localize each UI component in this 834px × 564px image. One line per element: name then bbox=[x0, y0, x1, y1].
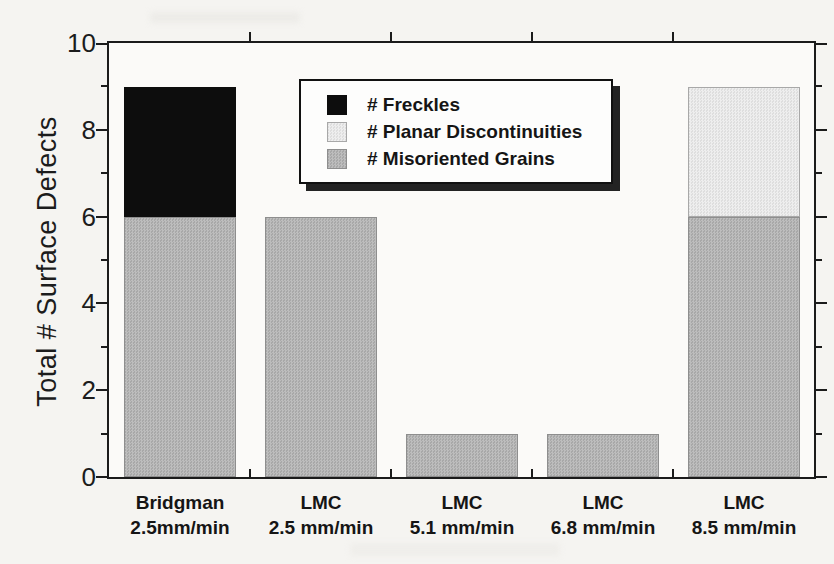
legend-box: # Freckles# Planar Discontinuities# Miso… bbox=[299, 79, 613, 184]
legend-entry-label: # Freckles bbox=[367, 94, 460, 116]
legend-swatch-icon bbox=[327, 95, 347, 115]
bar-segment bbox=[688, 217, 800, 477]
bar-segment bbox=[124, 217, 236, 477]
y-minor-tick-right bbox=[816, 85, 822, 87]
y-minor-tick-left bbox=[101, 172, 107, 174]
bar-segment bbox=[547, 434, 659, 477]
x-boundary-tick-top bbox=[531, 32, 533, 41]
y-minor-tick-right bbox=[816, 346, 822, 348]
y-minor-tick-left bbox=[101, 85, 107, 87]
y-tick-label: 4 bbox=[0, 289, 96, 317]
scan-artifact bbox=[350, 543, 560, 556]
y-major-tick-left bbox=[96, 389, 107, 391]
y-major-tick-left bbox=[96, 43, 107, 45]
y-minor-tick-right bbox=[816, 259, 822, 261]
y-tick-label: 2 bbox=[0, 376, 96, 404]
y-tick-label: 6 bbox=[0, 203, 96, 231]
x-boundary-tick-top bbox=[249, 32, 251, 41]
bar-segment bbox=[688, 87, 800, 217]
legend-swatch-icon bbox=[327, 149, 347, 169]
defect-bar-chart-figure: Total # Surface Defects 0246810 # Freckl… bbox=[0, 0, 834, 564]
x-boundary-tick-bottom bbox=[390, 469, 392, 477]
y-minor-tick-left bbox=[101, 433, 107, 435]
y-minor-tick-left bbox=[101, 259, 107, 261]
x-boundary-tick-bottom bbox=[531, 469, 533, 477]
legend-entry-label: # Planar Discontinuities bbox=[367, 121, 582, 143]
x-category-label: LMC8.5 mm/min bbox=[659, 490, 829, 540]
bar-segment bbox=[124, 87, 236, 217]
y-minor-tick-left bbox=[101, 346, 107, 348]
scan-artifact bbox=[150, 12, 300, 23]
x-category-label-line2: 8.5 mm/min bbox=[659, 515, 829, 540]
y-tick-label: 10 bbox=[0, 29, 96, 57]
y-major-tick-right bbox=[816, 476, 827, 478]
legend-swatch-icon bbox=[327, 122, 347, 142]
x-category-label-line1: LMC bbox=[659, 490, 829, 515]
y-major-tick-right bbox=[816, 129, 827, 131]
y-tick-label: 8 bbox=[0, 116, 96, 144]
legend-entry: # Misoriented Grains bbox=[327, 145, 601, 172]
y-major-tick-left bbox=[96, 129, 107, 131]
y-minor-tick-right bbox=[816, 172, 822, 174]
y-major-tick-right bbox=[816, 302, 827, 304]
legend-entry: # Freckles bbox=[327, 91, 601, 118]
x-boundary-tick-top bbox=[390, 32, 392, 41]
bar-segment bbox=[265, 217, 377, 477]
legend-entries: # Freckles# Planar Discontinuities# Miso… bbox=[327, 91, 601, 172]
x-boundary-tick-bottom bbox=[249, 469, 251, 477]
legend-entry: # Planar Discontinuities bbox=[327, 118, 601, 145]
y-major-tick-left bbox=[96, 476, 107, 478]
y-tick-label: 0 bbox=[0, 463, 96, 491]
bar-segment bbox=[406, 434, 518, 477]
y-major-tick-right bbox=[816, 389, 827, 391]
y-major-tick-left bbox=[96, 302, 107, 304]
y-major-tick-right bbox=[816, 216, 827, 218]
x-boundary-tick-top bbox=[672, 32, 674, 41]
y-minor-tick-right bbox=[816, 433, 822, 435]
legend-entry-label: # Misoriented Grains bbox=[367, 148, 555, 170]
y-major-tick-right bbox=[816, 43, 827, 45]
x-boundary-tick-bottom bbox=[672, 469, 674, 477]
y-major-tick-left bbox=[96, 216, 107, 218]
